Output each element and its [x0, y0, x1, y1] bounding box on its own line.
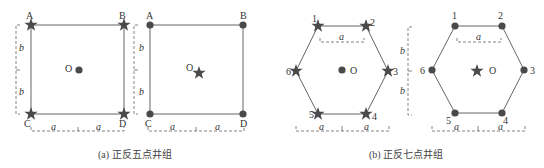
dimension-b	[134, 25, 138, 114]
label-B: B	[119, 10, 126, 21]
label-5: 5	[446, 115, 451, 126]
well-star-O	[470, 64, 483, 77]
dim-a-right: a	[215, 121, 220, 132]
square-outline	[150, 25, 243, 114]
dimension-a-bottom	[296, 126, 389, 131]
dimension-b	[16, 25, 20, 114]
dim-a-bottom-left: a	[454, 121, 459, 132]
caption-a: (a) 正反五点井组	[98, 146, 172, 161]
label-3: 3	[393, 66, 398, 77]
dim-a-top: a	[476, 31, 481, 42]
well-dot-6	[428, 66, 435, 73]
label-O: O	[489, 65, 496, 76]
label-2: 2	[370, 17, 375, 28]
label-O: O	[186, 62, 193, 73]
well-dot-5	[451, 109, 458, 116]
dim-a-left: a	[170, 121, 175, 132]
dim-a-bottom-left: a	[319, 121, 324, 132]
label-4: 4	[372, 111, 377, 122]
dim-b-upper: b	[19, 42, 24, 53]
dim-a-right: a	[96, 121, 101, 132]
dimension-a	[31, 127, 124, 131]
dim-b-upper: b	[139, 42, 144, 53]
dim-b-lower: b	[400, 85, 405, 96]
panel-seven-spot-normal: 1 2 3 4 5 6 O a a a b b	[286, 13, 412, 132]
caption-b: (b) 正反七点井组	[369, 146, 443, 161]
label-6: 6	[420, 65, 425, 76]
well-dot-C	[146, 110, 153, 117]
label-6: 6	[286, 66, 291, 77]
well-dot-D	[239, 110, 246, 117]
well-dot-A	[146, 21, 153, 28]
label-B: B	[240, 10, 247, 21]
label-A: A	[26, 10, 34, 21]
well-dot-O	[75, 66, 82, 73]
well-star-4	[359, 107, 372, 120]
label-C: C	[145, 118, 152, 129]
panel-five-spot-normal: A B C D O b b a a	[16, 10, 131, 132]
label-2: 2	[498, 10, 503, 21]
label-C: C	[24, 118, 31, 129]
dim-a-bottom-right: a	[364, 121, 369, 132]
well-dot-3	[520, 66, 527, 73]
label-1: 1	[312, 13, 317, 24]
dim-a-left: a	[51, 121, 56, 132]
dimension-a-bottom	[432, 126, 525, 131]
label-O: O	[65, 63, 72, 74]
dim-b-upper: b	[400, 45, 405, 56]
panel-five-spot-inverted: A B C D O b b a a	[134, 10, 247, 132]
label-3: 3	[530, 65, 535, 76]
well-dot-B	[239, 21, 246, 28]
well-dot-2	[498, 22, 505, 29]
dim-b-lower: b	[139, 86, 144, 97]
well-pattern-diagram: A B C D O b b a a A B C D O b b a a	[0, 0, 544, 168]
well-dot-1	[451, 22, 458, 29]
label-D: D	[240, 118, 247, 129]
dim-b-lower: b	[19, 86, 24, 97]
panel-seven-spot-inverted: 1 2 3 4 5 6 O a a a	[420, 10, 535, 132]
well-star-6	[289, 64, 302, 77]
label-O: O	[350, 65, 357, 76]
well-star-O	[192, 66, 205, 79]
label-D: D	[119, 118, 126, 129]
label-1: 1	[452, 10, 457, 21]
label-5: 5	[309, 109, 314, 120]
dim-a-bottom-right: a	[498, 121, 503, 132]
label-A: A	[146, 10, 154, 21]
dim-a-top: a	[339, 31, 344, 42]
label-4: 4	[503, 115, 508, 126]
well-dot-O	[338, 66, 345, 73]
